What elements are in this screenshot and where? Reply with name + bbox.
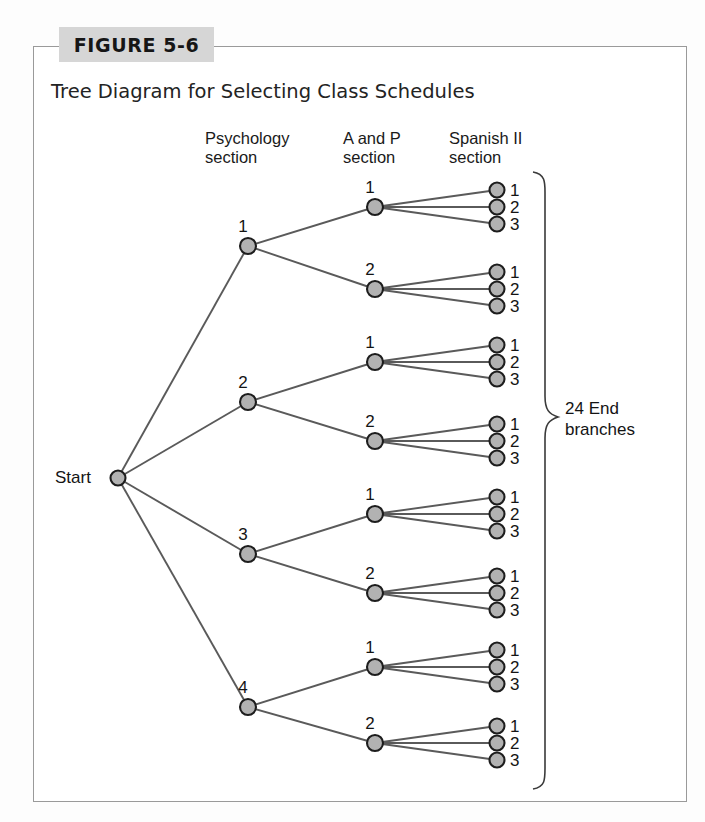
- tree-node-label: 2: [238, 373, 247, 392]
- tree-node: [367, 199, 383, 215]
- tree-node: [490, 524, 505, 539]
- tree-node: [490, 677, 505, 692]
- tree-node-label: 3: [510, 751, 519, 770]
- tree-node: [490, 753, 505, 768]
- tree-edge: [375, 593, 497, 610]
- tree-node: [367, 433, 383, 449]
- tree-node-label: 1: [238, 217, 247, 236]
- tree-node: [490, 183, 505, 198]
- tree-node: [490, 569, 505, 584]
- tree-node-label: 1: [365, 638, 374, 657]
- tree-edge: [375, 514, 497, 531]
- tree-edge: [375, 576, 497, 593]
- tree-node-label: 1: [365, 178, 374, 197]
- figure-container: FIGURE 5-6 Tree Diagram for Selecting Cl…: [0, 0, 705, 822]
- tree-node: [490, 417, 505, 432]
- tree-edge: [375, 272, 497, 289]
- node-layer: 123112321123112322123112323123112324: [111, 178, 520, 770]
- tree-node: [367, 506, 383, 522]
- tree-node-label: 3: [510, 601, 519, 620]
- tree-node: [490, 434, 505, 449]
- tree-edge: [375, 424, 497, 441]
- tree-node: [367, 354, 383, 370]
- end-branches-brace: [533, 172, 558, 789]
- tree-edge: [248, 362, 375, 402]
- tree-node: [490, 719, 505, 734]
- tree-diagram-canvas: 123112321123112322123112323123112324: [0, 0, 705, 822]
- tree-node: [490, 490, 505, 505]
- tree-edge: [248, 402, 375, 441]
- tree-node: [367, 281, 383, 297]
- tree-edge: [375, 441, 497, 458]
- tree-edge: [248, 707, 375, 743]
- tree-edge: [375, 726, 497, 743]
- tree-edge: [375, 743, 497, 760]
- tree-edge: [375, 207, 497, 224]
- tree-node: [240, 699, 256, 715]
- tree-node-label: 3: [510, 297, 519, 316]
- tree-node: [367, 735, 383, 751]
- tree-node: [240, 546, 256, 562]
- tree-node: [490, 586, 505, 601]
- tree-edge: [375, 345, 497, 362]
- tree-node-label: 3: [510, 675, 519, 694]
- tree-node: [367, 585, 383, 601]
- tree-node-label: 2: [365, 260, 374, 279]
- tree-node: [490, 372, 505, 387]
- tree-edge: [118, 478, 248, 554]
- tree-node: [490, 282, 505, 297]
- edge-layer: [118, 190, 497, 760]
- start-node: [111, 471, 126, 486]
- tree-node-label: 4: [238, 678, 247, 697]
- tree-node: [240, 238, 256, 254]
- tree-node: [490, 660, 505, 675]
- tree-edge: [118, 246, 248, 478]
- tree-node: [490, 265, 505, 280]
- tree-node: [490, 338, 505, 353]
- tree-node-label: 3: [510, 449, 519, 468]
- tree-node: [240, 394, 256, 410]
- tree-node-label: 1: [365, 333, 374, 352]
- tree-node-label: 1: [365, 485, 374, 504]
- tree-edge: [118, 402, 248, 478]
- tree-edge: [248, 207, 375, 246]
- tree-node: [490, 507, 505, 522]
- tree-node-label: 3: [510, 522, 519, 541]
- tree-edge: [375, 289, 497, 306]
- tree-node: [490, 603, 505, 618]
- tree-node: [367, 659, 383, 675]
- tree-node-label: 3: [238, 525, 247, 544]
- tree-node-label: 3: [510, 215, 519, 234]
- tree-node-label: 2: [365, 564, 374, 583]
- tree-node: [490, 299, 505, 314]
- tree-edge: [248, 514, 375, 554]
- tree-edge: [375, 497, 497, 514]
- tree-edge: [375, 190, 497, 207]
- brace-layer: [533, 172, 558, 789]
- tree-edge: [375, 362, 497, 379]
- tree-node-label: 2: [365, 412, 374, 431]
- tree-edge: [375, 650, 497, 667]
- tree-node: [490, 355, 505, 370]
- tree-edge: [248, 667, 375, 707]
- tree-node-label: 3: [510, 370, 519, 389]
- tree-node: [490, 200, 505, 215]
- tree-node: [490, 217, 505, 232]
- tree-node: [490, 736, 505, 751]
- tree-node: [490, 643, 505, 658]
- tree-edge: [248, 246, 375, 289]
- tree-node-label: 2: [365, 714, 374, 733]
- tree-edge: [118, 478, 248, 707]
- tree-edge: [248, 554, 375, 593]
- tree-edge: [375, 667, 497, 684]
- tree-node: [490, 451, 505, 466]
